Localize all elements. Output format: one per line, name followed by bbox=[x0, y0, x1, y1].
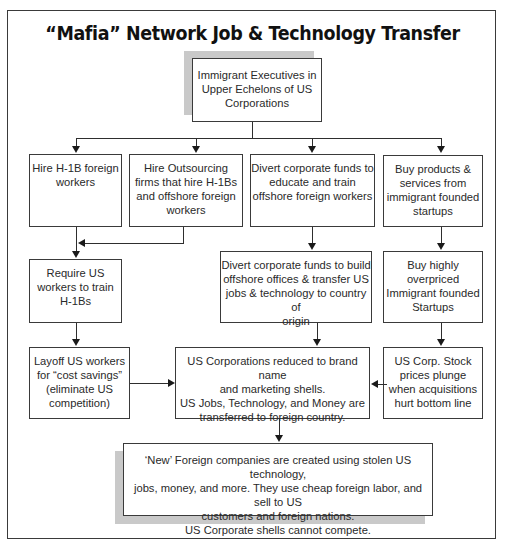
arrow-down-icon bbox=[72, 146, 80, 153]
arrow-down-icon bbox=[192, 146, 200, 153]
node-line: Immigrant founded bbox=[384, 286, 482, 300]
node-line: origin bbox=[221, 314, 371, 328]
node-hire-outsourcing: Hire Outsourcing firms that hire H-1Bs a… bbox=[129, 154, 243, 227]
node-line: and offshore foreign bbox=[130, 189, 242, 203]
node-line: transferred to foreign country. bbox=[176, 410, 369, 424]
node-divert-build: Divert corporate funds to build offshore… bbox=[220, 251, 372, 323]
node-line: Hire Outsourcing bbox=[130, 161, 242, 175]
node-line: competition) bbox=[30, 396, 129, 410]
connector bbox=[84, 243, 184, 244]
node-line: Startups bbox=[384, 300, 482, 314]
node-buy-overpriced: Buy highly overpriced Immigrant founded … bbox=[383, 251, 483, 323]
node-line: Divert corporate funds to bbox=[251, 161, 374, 175]
node-divert-educate: Divert corporate funds to educate and tr… bbox=[250, 154, 375, 227]
connector bbox=[312, 227, 313, 244]
node-line: jobs & technology to country of bbox=[221, 286, 371, 314]
node-line: immigrant founded bbox=[384, 190, 482, 204]
arrow-left-icon bbox=[371, 380, 378, 388]
node-line: Buy products & bbox=[384, 162, 482, 176]
node-line: hurt bottom line bbox=[384, 396, 482, 410]
node-line: startups bbox=[384, 204, 482, 218]
connector bbox=[76, 138, 442, 139]
arrow-down-icon bbox=[313, 339, 321, 346]
arrow-left-icon bbox=[78, 239, 85, 247]
connector bbox=[76, 227, 77, 252]
node-reduced-shells: US Corporations reduced to brand name an… bbox=[175, 347, 370, 419]
node-layoff: Layoff US workers for “cost savings” (el… bbox=[29, 347, 130, 419]
node-line: for “cost savings” bbox=[30, 368, 129, 382]
arrow-down-icon bbox=[72, 251, 80, 258]
node-line: services from bbox=[384, 176, 482, 190]
node-line: jobs, money, and more. They use cheap fo… bbox=[124, 481, 432, 509]
node-line: US Corporations reduced to brand name bbox=[176, 354, 369, 382]
arrow-down-icon bbox=[308, 243, 316, 250]
connector bbox=[130, 383, 168, 384]
node-line: prices plunge bbox=[384, 368, 482, 382]
node-line: Upper Echelons of US bbox=[193, 82, 321, 96]
node-line: offshore offices & transfer US bbox=[221, 272, 371, 286]
node-line: Corporations bbox=[193, 96, 321, 110]
node-line: firms that hire H-1Bs bbox=[130, 175, 242, 189]
connector bbox=[279, 419, 280, 436]
node-hire-h1b: Hire H-1B foreign workers bbox=[29, 154, 122, 227]
node-line: US Jobs, Technology, and Money are bbox=[176, 396, 369, 410]
node-stock-plunge: US Corp. Stock prices plunge when acquis… bbox=[383, 347, 483, 419]
node-line: H-1Bs bbox=[30, 294, 121, 308]
node-line: Divert corporate funds to build bbox=[221, 258, 371, 272]
node-line: and marketing shells. bbox=[176, 382, 369, 396]
node-line: Require US bbox=[30, 266, 121, 280]
connector bbox=[441, 323, 442, 340]
arrow-down-icon bbox=[437, 243, 445, 250]
node-line: overpriced bbox=[384, 272, 482, 286]
node-line: Buy highly bbox=[384, 258, 482, 272]
arrow-down-icon bbox=[437, 146, 445, 153]
connector bbox=[377, 384, 387, 385]
diagram-title: “Mafia” Network Job & Technology Transfe… bbox=[20, 22, 485, 44]
node-buy-products: Buy products & services from immigrant f… bbox=[383, 155, 483, 227]
node-line: Layoff US workers bbox=[30, 354, 129, 368]
node-line: US Corp. Stock bbox=[384, 354, 482, 368]
arrow-down-icon bbox=[308, 146, 316, 153]
node-line: workers bbox=[30, 175, 121, 189]
node-line: Hire H-1B foreign bbox=[30, 161, 121, 175]
arrow-down-icon bbox=[437, 339, 445, 346]
connector bbox=[252, 122, 253, 138]
node-line: ‘New’ Foreign companies are created usin… bbox=[124, 453, 432, 481]
arrow-right-icon bbox=[168, 379, 175, 387]
node-line: US Corporate shells cannot compete. bbox=[124, 523, 432, 537]
node-require-train: Require US workers to train H-1Bs bbox=[29, 259, 122, 323]
connector bbox=[76, 323, 77, 340]
node-line: offshore foreign workers bbox=[251, 189, 374, 203]
connector bbox=[441, 227, 442, 244]
arrow-down-icon bbox=[72, 339, 80, 346]
node-line: workers to train bbox=[30, 280, 121, 294]
node-root: Immigrant Executives in Upper Echelons o… bbox=[192, 58, 322, 122]
arrow-down-icon bbox=[275, 435, 283, 442]
node-line: customers and foreign nations. bbox=[124, 509, 432, 523]
node-line: educate and train bbox=[251, 175, 374, 189]
node-line: workers bbox=[130, 203, 242, 217]
node-new-foreign: ‘New’ Foreign companies are created usin… bbox=[123, 443, 433, 516]
node-line: Immigrant Executives in bbox=[193, 68, 321, 82]
connector bbox=[183, 227, 184, 243]
node-line: when acquisitions bbox=[384, 382, 482, 396]
connector bbox=[317, 323, 318, 340]
node-line: (eliminate US bbox=[30, 382, 129, 396]
